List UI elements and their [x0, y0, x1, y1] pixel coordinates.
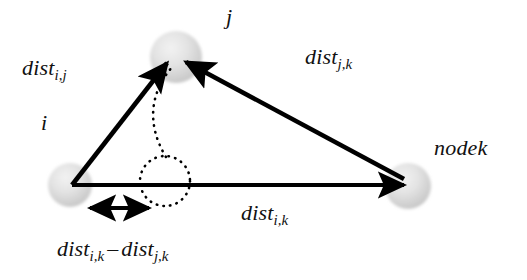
dotted-radius-circle	[140, 156, 190, 206]
label-dist-j-k-base: dist	[305, 44, 338, 69]
edge-i-to-j	[72, 63, 167, 185]
edge-k-to-j	[186, 62, 404, 179]
label-diff-right-base: dist	[121, 236, 154, 261]
label-dist-i-k: disti,k	[241, 202, 288, 228]
label-node-i: i	[41, 112, 47, 134]
label-node-j: j	[226, 6, 232, 28]
label-diff-left-subscript: i,k	[90, 248, 105, 264]
diagram-canvas: disti,j i j distj,k nodek disti,k disti,…	[0, 0, 527, 280]
label-dist-j-k: distj,k	[305, 46, 352, 72]
node-group	[48, 31, 431, 209]
label-diff-left-base: dist	[57, 236, 90, 261]
edge-group	[72, 62, 404, 208]
label-dist-i-k-subscript: i,k	[274, 212, 289, 228]
label-dist-j-k-subscript: j,k	[338, 56, 353, 72]
label-dist-i-j-subscript: i,j	[55, 67, 67, 83]
label-diff-right-subscript: j,k	[154, 248, 169, 264]
label-dist-i-j-base: dist	[22, 55, 55, 80]
label-node-k: nodek	[434, 137, 488, 159]
label-dist-i-j: disti,j	[22, 57, 67, 83]
label-diff-operator: –	[104, 236, 121, 261]
label-dist-i-k-base: dist	[241, 200, 274, 225]
label-distance-difference: disti,k–distj,k	[57, 238, 168, 264]
